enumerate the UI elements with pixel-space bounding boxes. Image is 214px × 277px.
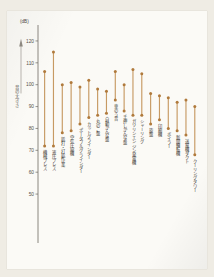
stem-dot-high [193,105,196,108]
stem-dot-high [131,68,134,71]
stem-dot-high [140,72,143,75]
stem-dot-low [167,127,170,130]
category-label: 新聞輪転機 [175,135,180,156]
data-series-stem [184,99,187,137]
y-tick-label: 90 [29,104,35,109]
data-series-stem [149,92,152,126]
category-label: ボイラー [166,132,171,148]
category-label: 空気圧縮機 [69,135,74,156]
stem-dot-low [193,153,196,156]
data-series-stem [123,83,126,112]
category-label: 旋盤 [148,128,153,136]
y-tick-label: 50 [29,192,35,197]
y-tick-label: 120 [26,39,34,44]
category-label: 丸のこ盤 [95,119,100,135]
stem-dot-low [140,114,143,117]
data-series-stem [78,85,81,125]
unit-label: (dB) [20,19,29,24]
stem-dot-high [70,81,73,84]
stem-dot-high [149,92,152,95]
stem-dot-low [52,144,55,147]
stem-dot-low [158,118,161,121]
stem-dot-low [61,131,64,134]
y-tick-label: 80 [29,126,35,131]
stem-dot-high [87,79,90,82]
y-tick-label: 70 [29,148,35,153]
data-series-stem [105,90,108,115]
stem-dot-low [184,134,187,137]
stem-dot-low [105,112,108,115]
category-label: ポータブルグラインダー [78,128,83,173]
stem-dot-high [114,70,117,73]
category-label: 液圧プレス [51,150,56,171]
stem-dot-high [105,90,108,93]
data-series-stem [96,88,99,117]
data-series-stem [167,96,170,130]
stem-dot-high [184,99,187,102]
category-label: 手押しかんな盤 [122,115,127,144]
data-series-stem [158,94,161,121]
y-tick-label: 60 [29,170,35,175]
stem-dot-high [176,101,179,104]
stem-dot-low [96,114,99,117]
stem-dot-low [131,114,134,117]
data-series-stem [52,50,55,147]
stem-dot-low [70,129,73,132]
category-label: カットグラインダー [86,122,91,159]
figure-page: 1201101009080706050 (dB) 音の大きさ 機械プレス液圧プレ… [0,0,214,277]
stem-dot-low [123,109,126,112]
stem-dot-high [123,83,126,86]
data-series-stem [131,68,134,117]
stem-dot-high [167,96,170,99]
stem-dot-low [176,129,179,132]
y-tick-label: 100 [26,82,34,87]
data-series-stem [87,79,90,119]
stem-dot-high [43,70,46,73]
stem-dot-low [149,123,152,126]
category-label: 鋲打・打鋲作業 [60,137,65,166]
data-series-stem [193,105,196,156]
stem-dot-high [158,94,161,97]
y-direction-arrow-head [19,39,23,47]
stem-dot-low [87,116,90,119]
stem-dot-high [52,50,55,53]
stem-dot-high [96,88,99,91]
data-series-stem [61,83,64,134]
category-label: クーリングタワー [192,159,197,192]
stem-dot-low [43,144,46,147]
category-label: 印刷機 [157,124,162,136]
data-series-stem [43,70,46,147]
category-label: 機械プレス [42,150,47,171]
data-series-stem [114,70,117,101]
category-label: 送風機ダクト [184,139,189,164]
stem-dot-high [61,83,64,86]
y-tick-label: 110 [26,61,34,66]
category-label: 自動かんな盤 [104,117,109,142]
stem-dot-low [114,99,117,102]
data-series-stem [70,81,73,132]
data-series-stem [176,101,179,132]
stem-dot-low [78,123,81,126]
category-label: 車のう音 [113,104,118,120]
y-axis-title: 音の大きさ [13,85,19,107]
category-label: シャーリング [139,119,144,144]
category-label: ガソリンエンジン発電機 [131,119,136,164]
data-series-stem [140,72,143,117]
stem-dot-high [78,85,81,88]
